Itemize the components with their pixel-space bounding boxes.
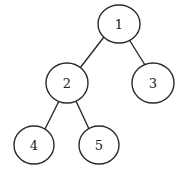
tree-diagram: 1 2 3 4 5 bbox=[0, 0, 176, 173]
node-label: 3 bbox=[149, 76, 157, 91]
node-label: 5 bbox=[95, 138, 103, 153]
edge-1-3 bbox=[130, 41, 145, 65]
edge-1-2 bbox=[80, 37, 104, 68]
tree-node-5: 5 bbox=[79, 126, 119, 164]
tree-node-4: 4 bbox=[14, 126, 54, 164]
edge-2-4 bbox=[45, 101, 59, 129]
nodes: 1 2 3 4 5 bbox=[14, 5, 174, 164]
edge-2-5 bbox=[76, 101, 89, 129]
tree-node-1: 1 bbox=[98, 5, 140, 43]
node-label: 2 bbox=[63, 76, 71, 91]
tree-node-3: 3 bbox=[132, 63, 174, 103]
node-label: 4 bbox=[30, 138, 38, 153]
tree-node-2: 2 bbox=[46, 63, 88, 103]
node-label: 1 bbox=[115, 17, 123, 32]
